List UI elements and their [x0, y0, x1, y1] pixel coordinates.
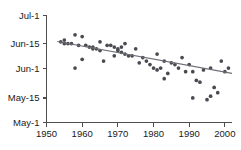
data-point	[209, 94, 213, 98]
data-point	[155, 52, 159, 56]
data-point	[73, 33, 77, 37]
data-point	[98, 40, 102, 44]
data-point	[219, 59, 223, 63]
data-point	[62, 38, 66, 42]
data-point	[205, 98, 209, 102]
data-point	[109, 43, 113, 47]
chart-canvas: May-1May-15Jun-1Jun-15Jul-1 195019601970…	[0, 0, 241, 150]
data-point	[145, 59, 149, 63]
y-axis: May-1May-15Jun-1Jun-15Jul-1	[8, 10, 47, 128]
y-axis-tick-label: May-1	[13, 117, 39, 128]
x-axis: 195019601970198019902000	[36, 123, 236, 140]
trend-line	[57, 41, 232, 73]
x-axis-tick-label: 1990	[179, 128, 200, 139]
data-point	[112, 54, 116, 58]
x-axis-tick-label: 1950	[36, 128, 57, 139]
data-point	[198, 80, 202, 84]
y-axis-tick-label: May-15	[8, 92, 40, 103]
scatter-chart: May-1May-15Jun-1Jun-15Jul-1 195019601970…	[0, 0, 241, 150]
data-point	[102, 59, 106, 63]
data-point	[191, 70, 195, 74]
data-point	[159, 66, 163, 70]
y-axis-tick-label: Jul-1	[19, 10, 40, 21]
data-point	[180, 56, 184, 60]
x-axis-tick-label: 1980	[143, 128, 164, 139]
data-point	[166, 72, 170, 76]
x-axis-tick-label: 1960	[72, 128, 93, 139]
data-point	[137, 61, 141, 65]
data-point	[80, 58, 84, 62]
data-point	[184, 70, 188, 74]
data-point	[148, 63, 152, 67]
y-axis-tick-label: Jun-15	[10, 38, 39, 49]
data-points	[59, 33, 230, 102]
data-point	[123, 42, 127, 46]
data-point	[191, 96, 195, 100]
data-point	[194, 79, 198, 83]
data-point	[73, 66, 77, 70]
data-point	[134, 47, 138, 51]
x-axis-tick-label: 2000	[214, 128, 235, 139]
data-point	[227, 66, 231, 70]
data-point	[120, 45, 124, 49]
y-axis-tick-label: Jun-1	[16, 63, 40, 74]
x-axis-tick-label: 1970	[107, 128, 128, 139]
data-point	[177, 66, 181, 70]
trend-line-segment	[57, 41, 232, 73]
data-point	[162, 77, 166, 81]
data-point	[152, 66, 156, 70]
data-point	[105, 43, 109, 47]
data-point	[155, 68, 159, 72]
data-point	[212, 86, 216, 90]
data-point	[216, 91, 220, 95]
data-point	[112, 45, 116, 49]
data-point	[80, 35, 84, 39]
